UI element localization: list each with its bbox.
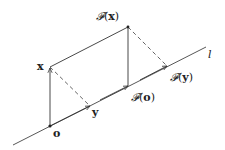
label-Fx: 𝓕(x) bbox=[96, 10, 119, 23]
label-o: o bbox=[53, 127, 60, 140]
arrow-to-Fy bbox=[140, 66, 167, 80]
label-x: x bbox=[37, 60, 44, 73]
diagram-canvas: x o y l 𝓕(x) 𝓕(o) 𝓕(y) bbox=[0, 0, 225, 150]
arrow-o-y bbox=[50, 106, 90, 126]
arrow-to-Fo bbox=[100, 86, 128, 100]
dashed-x-y bbox=[50, 67, 90, 106]
dashed-Fx-Fy bbox=[128, 27, 167, 66]
label-Fo: 𝓕(o) bbox=[131, 91, 155, 104]
segment-x-Fx bbox=[50, 27, 128, 67]
label-Fy: 𝓕(y) bbox=[170, 71, 193, 84]
label-l: l bbox=[208, 48, 212, 61]
point-o bbox=[48, 124, 51, 127]
point-Fx bbox=[127, 26, 130, 29]
label-y: y bbox=[91, 106, 99, 119]
